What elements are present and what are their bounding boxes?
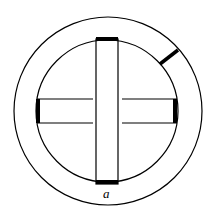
left-contact [36,99,40,123]
vertical-bar [96,37,118,184]
brush-contact [160,50,178,64]
inner-circle [36,40,178,182]
bottom-contact [96,180,118,184]
right-contact [173,99,177,123]
label-a: a [103,186,110,202]
horizontal-bar [36,99,177,123]
cross-rotor-diagram [0,0,209,216]
top-contact [96,37,118,41]
